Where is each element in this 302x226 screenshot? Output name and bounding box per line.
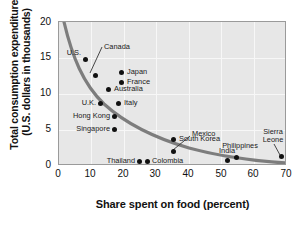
x-tick-20: 20 [110,168,136,179]
y-tick-20: 20 [31,16,51,27]
data-point-singapore[interactable] [112,127,117,132]
point-label-us: U.S. [67,49,81,57]
y-tick-5: 5 [31,123,51,134]
point-label-mexico: Mexico [192,130,215,138]
data-point-south-korea[interactable] [171,137,176,142]
y-axis-title: Total consumption expenditures (U.S. dol… [8,0,32,152]
x-tick-70: 70 [273,168,299,179]
data-point-india[interactable] [225,158,230,163]
point-label-singapore: Singapore [76,125,110,133]
data-point-thailand[interactable] [137,159,142,164]
x-tick-60: 60 [240,168,266,179]
data-point-hong-kong[interactable] [112,114,117,119]
point-label-thailand: Thailand [107,157,135,165]
x-tick-50: 50 [208,168,234,179]
x-tick-10: 10 [77,168,103,179]
point-label-sierra-leone-line2: Leone [263,135,284,144]
point-label-australia: Australia [114,85,143,93]
x-tick-40: 40 [175,168,201,179]
point-label-colombia: Colombia [152,157,183,165]
data-point-mexico[interactable] [171,149,176,154]
leader-line-sierra-leone [274,144,280,155]
point-label-philippines: Philippines [222,142,258,150]
x-tick-0: 0 [45,168,71,179]
data-point-japan[interactable] [119,70,124,75]
data-point-italy[interactable] [116,101,121,106]
chart-figure: Total consumption expenditures (U.S. dol… [0,0,302,226]
plot-area: U.S. Canada Japan France Australia U.K. … [58,21,286,165]
point-label-sierra-leone: Sierra Leone [263,128,284,144]
x-axis-title: Share spent on food (percent) [50,198,295,210]
point-label-italy: Italy [124,99,138,107]
point-label-canada: Canada [104,43,130,51]
data-point-canada[interactable] [93,73,98,78]
data-point-us[interactable] [83,57,88,62]
x-tick-30: 30 [142,168,168,179]
y-tick-10: 10 [31,87,51,98]
data-point-australia[interactable] [106,87,111,92]
point-label-hong-kong: Hong Kong [73,112,110,120]
data-point-sierra-leone[interactable] [279,154,284,159]
y-axis-title-line1: Total consumption expenditures [8,0,20,150]
point-label-japan: Japan [127,68,147,76]
data-point-uk[interactable] [98,101,103,106]
y-tick-15: 15 [31,51,51,62]
data-point-philippines[interactable] [234,155,239,160]
point-label-uk: U.K. [82,99,96,107]
data-point-colombia[interactable] [145,159,150,164]
leader-line-canada [90,47,102,73]
